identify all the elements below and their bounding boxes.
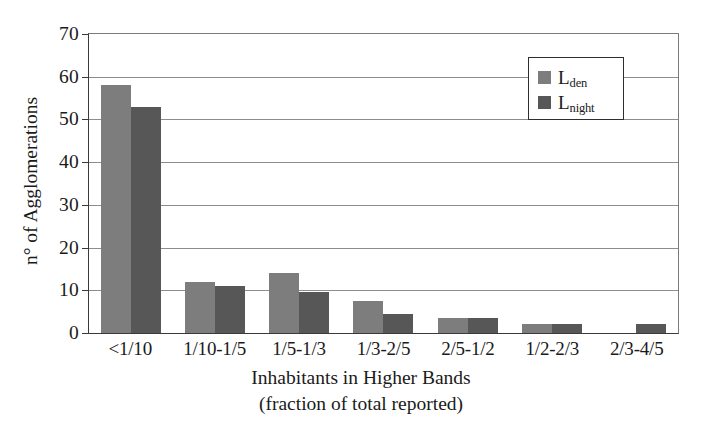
x-axis-title-line2: (fraction of total reported) [0,391,722,417]
y-tick-label: 60 [59,67,79,87]
y-tick-label: 30 [59,195,79,215]
bar-Lnight-2 [299,292,329,333]
legend-item-Lden[interactable]: Lden [538,65,623,90]
y-tick-mark [82,162,89,163]
x-axis-title: Inhabitants in Higher Bands (fraction of… [0,365,722,418]
bar-Lden-5 [522,324,552,333]
y-tick-mark [82,333,89,334]
bar-Lnight-3 [383,314,413,333]
x-tick-label: 1/5-1/3 [257,338,341,360]
bar-Lnight-6 [636,324,666,333]
y-tick-mark [82,290,89,291]
legend: LdenLnight [528,57,624,120]
bar-group [173,34,257,333]
y-tick-label: 10 [59,281,79,301]
x-tick-label: 1/10-1/5 [172,338,256,360]
x-axis-tick-labels: <1/101/10-1/51/5-1/31/3-2/52/5-1/21/2-2/… [88,338,679,360]
y-tick-label: 0 [69,323,79,343]
y-axis-title: n° of Agglomerations [20,56,42,306]
bar-group [426,34,510,333]
bar-group [89,34,173,333]
bar-Lden-0 [101,85,131,333]
bar-chart-figure: 010203040506070 <1/101/10-1/51/5-1/31/3-… [0,0,722,438]
x-tick-label: 2/5-1/2 [426,338,510,360]
legend-swatch-Lnight [538,96,551,109]
x-tick-label: <1/10 [88,338,172,360]
y-tick-mark [82,248,89,249]
legend-swatch-Lden [538,71,551,84]
y-tick-mark [82,77,89,78]
x-axis-title-line1: Inhabitants in Higher Bands [251,367,470,388]
bar-Lnight-5 [552,324,582,333]
y-tick-label: 40 [59,152,79,172]
x-tick-label: 1/2-2/3 [510,338,594,360]
bar-Lden-4 [438,318,468,333]
legend-item-Lnight[interactable]: Lnight [538,90,623,115]
bar-group [341,34,425,333]
bar-Lnight-0 [131,107,161,333]
y-tick-mark [82,34,89,35]
y-tick-label: 20 [59,238,79,258]
bar-Lden-1 [185,282,215,333]
bar-group [257,34,341,333]
y-tick-mark [82,119,89,120]
bar-Lden-2 [269,273,299,333]
legend-label-Lnight: Lnight [558,93,594,112]
legend-label-Lden: Lden [558,68,587,87]
y-tick-label: 50 [59,110,79,130]
bar-Lden-3 [353,301,383,333]
x-tick-label: 1/3-2/5 [341,338,425,360]
bar-Lnight-4 [468,318,498,333]
x-tick-label: 2/3-4/5 [595,338,679,360]
y-tick-label: 70 [59,24,79,44]
y-tick-mark [82,205,89,206]
bar-Lnight-1 [215,286,245,333]
